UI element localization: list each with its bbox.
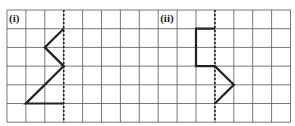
grid-lines	[7, 10, 291, 122]
panel-label-ii: (ii)	[160, 12, 174, 25]
mirror-symmetry-grid-figure: (i) (ii)	[0, 0, 295, 126]
panel-labels: (i) (ii)	[9, 12, 174, 25]
panel-label-i: (i)	[9, 12, 20, 25]
